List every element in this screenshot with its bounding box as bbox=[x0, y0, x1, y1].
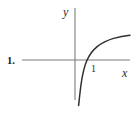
x-axis-label: x bbox=[121, 66, 128, 80]
y-axis-label: y bbox=[62, 5, 69, 19]
x-tick-label-1: 1 bbox=[91, 63, 96, 74]
figure-container: y x 1 1. bbox=[0, 0, 138, 117]
item-number-label: 1. bbox=[7, 55, 15, 66]
log-function-plot: y x 1 1. bbox=[0, 0, 138, 117]
